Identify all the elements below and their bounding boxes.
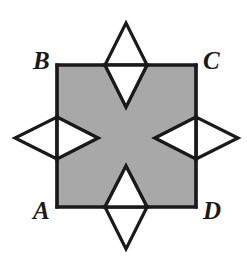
vertex-label-a: A <box>33 198 50 223</box>
rhombus-left-outer-triangle <box>15 117 57 159</box>
geometry-figure: B C A D <box>0 0 247 269</box>
vertex-label-d: D <box>203 198 221 223</box>
rhombus-top-outer-triangle <box>105 23 147 65</box>
vertex-label-b: B <box>33 48 50 73</box>
vertex-label-c: C <box>203 48 220 73</box>
figure-canvas <box>0 0 247 269</box>
rhombus-right-outer-triangle <box>196 117 238 159</box>
rhombus-bottom-outer-triangle <box>105 207 147 249</box>
